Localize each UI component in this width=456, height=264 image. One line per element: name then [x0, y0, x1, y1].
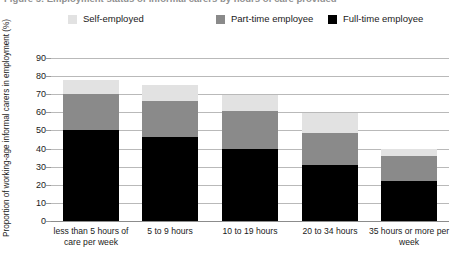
bar-segment-part-time-employee — [63, 94, 119, 130]
y-axis-tick-mark — [46, 112, 51, 113]
figure-title-text: Figure 5: Employment status of informal … — [4, 0, 337, 4]
bar-segment-full-time-employee — [63, 130, 119, 221]
y-axis-tick-mark — [46, 203, 51, 204]
legend-swatch-self-employed-icon — [68, 15, 77, 24]
y-axis-tick-mark — [46, 130, 51, 131]
bar-stack — [381, 149, 437, 221]
bar-stack — [302, 113, 358, 221]
bar-segment-self-employed — [142, 85, 198, 101]
bar-segment-full-time-employee — [381, 181, 437, 221]
y-axis-tick-label: 60 — [6, 108, 46, 117]
legend-item-full-time: Full-time employee — [328, 11, 423, 27]
chart-legend: Self-employed Part-time employee Full-ti… — [0, 11, 456, 27]
bar-segment-self-employed — [302, 113, 358, 133]
gridline — [51, 76, 449, 77]
y-axis-tick-mark — [46, 94, 51, 95]
legend-label-self-employed: Self-employed — [83, 14, 144, 24]
legend-swatch-full-time-icon — [328, 15, 337, 24]
bar-segment-self-employed — [63, 80, 119, 94]
x-axis-tick-label: 5 to 9 hours — [126, 226, 214, 237]
bar-segment-part-time-employee — [222, 111, 278, 148]
figure-title-truncated: Figure 5: Employment status of informal … — [0, 0, 456, 8]
y-axis-tick-label: 20 — [6, 180, 46, 189]
bar-segment-part-time-employee — [142, 101, 198, 136]
gridline — [51, 58, 449, 59]
x-axis-tick-label: less than 5 hours of care per week — [47, 226, 135, 248]
legend-label-part-time: Part-time employee — [231, 14, 313, 24]
y-axis-tick-label: 10 — [6, 198, 46, 207]
x-axis-tick-labels: less than 5 hours of care per week5 to 9… — [51, 226, 449, 260]
y-axis-tick-mark — [46, 185, 51, 186]
x-axis-tick-label: 20 to 34 hours — [286, 226, 374, 237]
bar-segment-part-time-employee — [381, 156, 437, 181]
y-axis-tick-label: 40 — [6, 144, 46, 153]
legend-swatch-part-time-icon — [216, 15, 225, 24]
y-axis-tick-label: 30 — [6, 162, 46, 171]
legend-label-full-time: Full-time employee — [343, 14, 423, 24]
bar-segment-part-time-employee — [302, 133, 358, 165]
bar-segment-full-time-employee — [222, 149, 278, 221]
y-axis-tick-label: 50 — [6, 126, 46, 135]
x-axis-tick-label: 35 hours or more per week — [365, 226, 453, 248]
x-axis-line — [51, 221, 449, 222]
plot-area — [51, 58, 449, 222]
chart-figure: Figure 5: Employment status of informal … — [0, 0, 456, 264]
legend-item-self-employed: Self-employed — [68, 11, 144, 27]
y-axis-tick-mark — [46, 167, 51, 168]
y-axis-tick-labels: 0102030405060708090 — [3, 58, 46, 222]
y-axis-tick-mark — [46, 221, 51, 222]
y-axis-tick-label: 90 — [6, 54, 46, 63]
y-axis-tick-mark — [46, 149, 51, 150]
bar-segment-self-employed — [222, 95, 278, 111]
bar-segment-self-employed — [381, 149, 437, 156]
y-axis-tick-label: 0 — [6, 217, 46, 226]
x-axis-tick-label: 10 to 19 hours — [206, 226, 294, 237]
bar-stack — [63, 80, 119, 221]
bar-stack — [222, 95, 278, 221]
y-axis-tick-label: 80 — [6, 72, 46, 81]
bar-stack — [142, 85, 198, 221]
y-axis-tick-mark — [46, 76, 51, 77]
bar-segment-full-time-employee — [142, 137, 198, 221]
y-axis-tick-label: 70 — [6, 90, 46, 99]
y-axis-tick-mark — [46, 58, 51, 59]
legend-item-part-time: Part-time employee — [216, 11, 313, 27]
bar-segment-full-time-employee — [302, 165, 358, 221]
